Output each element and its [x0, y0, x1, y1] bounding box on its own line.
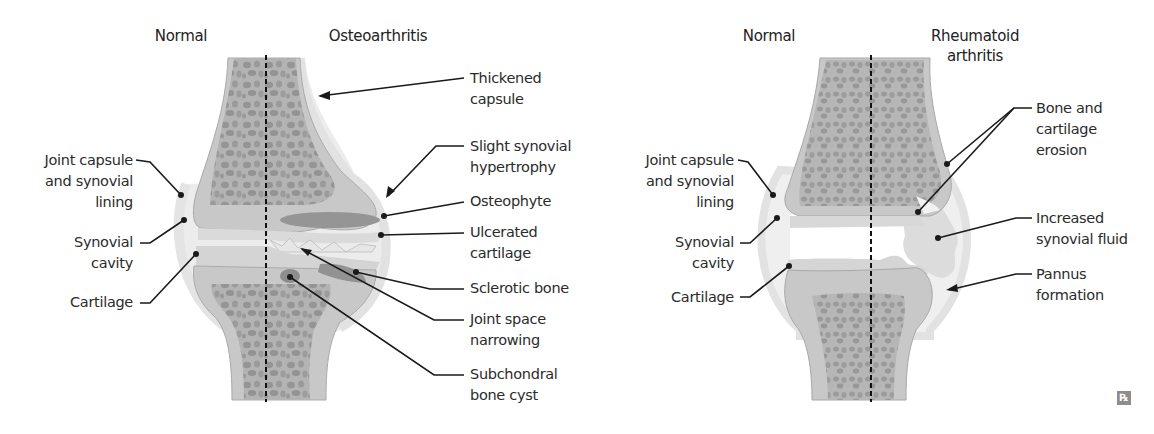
label-joint-capsule: Joint capsule and synovial lining	[20, 150, 133, 213]
label-line: Joint capsule	[610, 150, 734, 171]
label-line: erosion	[1036, 140, 1102, 161]
label-synovial-hypertrophy: Slight synovial hypertrophy	[470, 136, 571, 178]
label-line: Osteophyte	[470, 191, 551, 212]
rx-logo-icon: ℞	[1117, 391, 1131, 405]
label-line: Thickened	[470, 68, 541, 89]
label-line: cartilage	[470, 243, 538, 264]
ra-title-line-2: arthritis	[930, 46, 1020, 66]
label-line: Joint space	[470, 309, 546, 330]
ra-title-rheumatoid: Rheumatoid arthritis	[930, 26, 1020, 66]
oa-joint	[177, 55, 387, 402]
ra-label-synovial-cavity: Synovial cavity	[610, 232, 734, 274]
label-line: and synovial	[20, 171, 133, 192]
label-line: cartilage	[1036, 119, 1102, 140]
label-line: Subchondral	[470, 364, 558, 385]
label-line: Synovial	[20, 232, 133, 253]
label-line: Pannus	[1036, 264, 1104, 285]
label-line: Synovial	[610, 232, 734, 253]
label-line: hypertrophy	[470, 157, 571, 178]
label-bone-cartilage-erosion: Bone and cartilage erosion	[1036, 98, 1102, 161]
oa-title-osteoarthritis: Osteoarthritis	[318, 26, 438, 46]
label-cartilage: Cartilage	[20, 292, 133, 313]
label-line: Slight synovial	[470, 136, 571, 157]
ra-label-joint-capsule: Joint capsule and synovial lining	[610, 150, 734, 213]
label-line: lining	[610, 192, 734, 213]
label-line: Cartilage	[610, 287, 734, 308]
label-line: cavity	[20, 253, 133, 274]
label-thickened-capsule: Thickened capsule	[470, 68, 541, 110]
label-line: Sclerotic bone	[470, 278, 569, 299]
label-pannus-formation: Pannus formation	[1036, 264, 1104, 306]
label-line: Joint capsule	[20, 150, 133, 171]
label-line: Ulcerated	[470, 222, 538, 243]
label-line: Increased	[1036, 208, 1128, 229]
label-subchondral-cyst: Subchondral bone cyst	[470, 364, 558, 406]
ra-joint	[761, 55, 966, 402]
label-line: and synovial	[610, 171, 734, 192]
label-line: lining	[20, 192, 133, 213]
label-synovial-cavity: Synovial cavity	[20, 232, 133, 274]
joint-diagram: Normal Osteoarthritis Normal Rheumatoid …	[0, 0, 1154, 434]
label-line: Cartilage	[20, 292, 133, 313]
label-line: Bone and	[1036, 98, 1102, 119]
ra-title-normal: Normal	[738, 26, 800, 46]
ra-title-line-1: Rheumatoid	[930, 26, 1020, 46]
label-line: bone cyst	[470, 385, 558, 406]
label-sclerotic-bone: Sclerotic bone	[470, 278, 569, 299]
label-line: cavity	[610, 253, 734, 274]
label-line: narrowing	[470, 330, 546, 351]
label-line: capsule	[470, 89, 541, 110]
label-increased-synovial-fluid: Increased synovial fluid	[1036, 208, 1128, 250]
label-joint-space-narrowing: Joint space narrowing	[470, 309, 546, 351]
label-line: synovial fluid	[1036, 229, 1128, 250]
label-line: formation	[1036, 285, 1104, 306]
label-osteophyte: Osteophyte	[470, 191, 551, 212]
ra-label-cartilage: Cartilage	[610, 287, 734, 308]
oa-title-normal: Normal	[150, 26, 212, 46]
label-ulcerated-cartilage: Ulcerated cartilage	[470, 222, 538, 264]
